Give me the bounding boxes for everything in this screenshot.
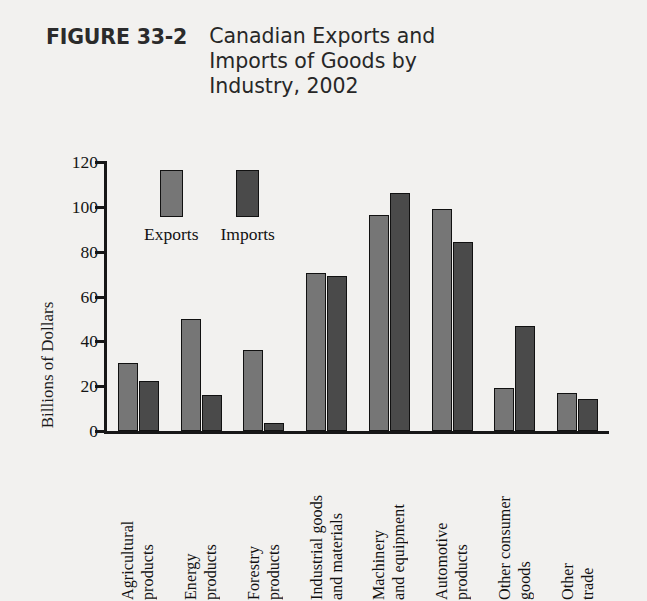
legend-label-exports: Exports [144,224,198,245]
bar-exports[interactable] [369,215,389,431]
bar-group [369,162,410,431]
figure-title: Canadian Exports and Imports of Goods by… [209,24,459,99]
category-label: Agricultural products [117,440,160,600]
category-label: Energy products [180,440,223,600]
bar-chart: Billions of Dollars 020406080100120 Expo… [0,150,647,601]
bar-group [494,162,535,431]
y-axis-tick-mark [95,251,107,254]
legend-swatch-exports [160,170,183,217]
bar-exports[interactable] [118,363,138,431]
x-axis-category-labels: Agricultural productsEnergy productsFore… [107,440,609,600]
legend-entry-imports[interactable]: Imports [220,170,274,245]
category-label-text: Machinery and equipment [369,440,409,600]
bar-imports[interactable] [515,326,535,431]
bar-imports[interactable] [327,276,347,431]
figure-number: FIGURE 33-2 [46,24,187,49]
bar-exports[interactable] [557,393,577,431]
bar-imports[interactable] [264,423,284,431]
bar-exports[interactable] [243,350,263,431]
y-axis-tick-mark [95,296,107,299]
x-axis-line [104,431,609,434]
bar-exports[interactable] [306,273,326,431]
category-label-text: Automotive products [432,440,472,600]
y-axis-tick-mark [95,385,107,388]
category-label-text: Other consumer goods [495,440,535,600]
category-label-text: Forestry products [244,440,284,600]
bar-imports[interactable] [139,381,159,431]
y-axis-tick-mark [95,340,107,343]
bar-imports[interactable] [578,399,598,432]
bar-imports[interactable] [202,395,222,431]
category-label-text: Energy products [181,440,221,600]
legend-entry-exports[interactable]: Exports [144,170,198,245]
bar-imports[interactable] [453,242,473,431]
category-label: Machinery and equipment [368,440,411,600]
category-label: Industrial goods and materials [305,440,348,600]
y-axis-tick-mark [95,161,107,164]
chart-legend: ExportsImports [144,170,275,245]
category-label-text: Agricultural products [118,440,158,600]
bar-exports[interactable] [494,388,514,431]
bar-exports[interactable] [181,319,201,431]
category-label: Forestry products [242,440,285,600]
y-axis-tick-mark [95,206,107,209]
bar-group [432,162,473,431]
y-axis-tick-labels: 020406080100120 [42,150,98,450]
category-label: Other consumer goods [493,440,536,600]
bar-group [306,162,347,431]
category-label: Other trade [556,440,599,600]
legend-swatch-imports [236,170,259,217]
category-label-text: Other trade [558,440,598,600]
bar-group [557,162,598,431]
category-label: Automotive products [431,440,474,600]
y-axis-tick-mark [95,430,107,433]
figure-header: FIGURE 33-2 Canadian Exports and Imports… [46,24,606,99]
category-label-text: Industrial goods and materials [307,440,347,600]
plot-area: ExportsImports [104,162,609,434]
bar-imports[interactable] [390,193,410,431]
legend-label-imports: Imports [220,224,274,245]
bar-exports[interactable] [432,209,452,431]
